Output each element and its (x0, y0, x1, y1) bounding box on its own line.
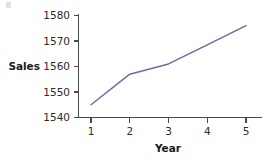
y-tick-label-1550: 1550 (43, 86, 70, 98)
x-tick-label-4: 4 (204, 125, 211, 137)
y-axis-title: Sales (8, 60, 40, 72)
y-tick-label-1560: 1560 (43, 60, 70, 72)
x-tick-label-5: 5 (243, 125, 250, 137)
chart-canvas: 1540 1550 1560 1570 1580 1 2 3 4 5 Sales… (0, 0, 274, 159)
y-tick-label-1580: 1580 (43, 9, 70, 21)
y-tick-label-1570: 1570 (43, 35, 70, 47)
x-tick-label-3: 3 (165, 125, 172, 137)
y-tick-label-1540: 1540 (43, 111, 70, 123)
x-tick-label-2: 2 (126, 125, 133, 137)
x-axis-title: Year (154, 142, 182, 154)
line-chart-figure: 1540 1550 1560 1570 1580 1 2 3 4 5 Sales… (0, 0, 274, 159)
sales-series-line (91, 26, 246, 105)
x-tick-label-1: 1 (88, 125, 95, 137)
